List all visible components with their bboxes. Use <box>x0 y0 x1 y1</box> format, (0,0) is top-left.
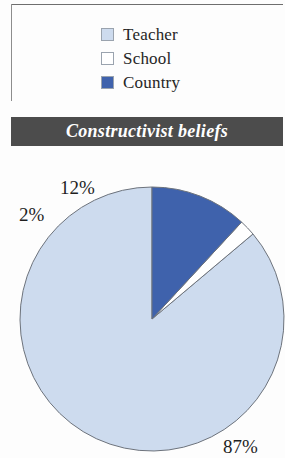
chart-title-band: Constructivist beliefs <box>11 117 283 146</box>
legend-swatch-country-icon <box>101 76 114 89</box>
pie-label-country: 12% <box>60 178 95 197</box>
pie-label-school: 2% <box>19 205 44 224</box>
chart-title: Constructivist beliefs <box>66 121 228 142</box>
legend-label-country: Country <box>123 74 180 91</box>
pie-label-teacher: 87% <box>223 437 258 456</box>
pie-chart <box>0 150 285 458</box>
legend-label-teacher: Teacher <box>123 26 178 43</box>
top-divider-rule <box>11 4 283 5</box>
legend-swatch-school-icon <box>101 52 114 65</box>
pie-chart-svg <box>0 150 285 458</box>
legend-item-country: Country <box>101 70 251 94</box>
legend-label-school: School <box>123 50 171 67</box>
figure-panel: Teacher School Country Constructivist be… <box>0 0 285 458</box>
chart-legend: Teacher School Country <box>101 22 251 94</box>
legend-item-teacher: Teacher <box>101 22 251 46</box>
left-divider-rule <box>11 4 12 101</box>
legend-swatch-teacher-icon <box>101 28 114 41</box>
legend-item-school: School <box>101 46 251 70</box>
